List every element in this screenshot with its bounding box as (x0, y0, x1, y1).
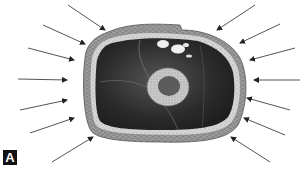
arrow-icon (217, 5, 255, 30)
bone-marrow (158, 76, 180, 96)
arrow-icon (244, 118, 285, 135)
arrow-icon (250, 48, 295, 60)
arrow-icon (18, 79, 67, 80)
arrow-icon (247, 98, 290, 110)
arrow-icon (28, 48, 74, 60)
arrow-icon (68, 5, 105, 30)
arrow-icon (43, 25, 85, 44)
arrow-icon (231, 137, 270, 162)
arrow-icon (20, 100, 67, 110)
arrow-icon (30, 118, 74, 133)
limb-cross-section-figure (0, 0, 307, 174)
arrow-icon (52, 137, 93, 162)
panel-label: A (3, 150, 17, 165)
arrow-icon (240, 24, 280, 43)
